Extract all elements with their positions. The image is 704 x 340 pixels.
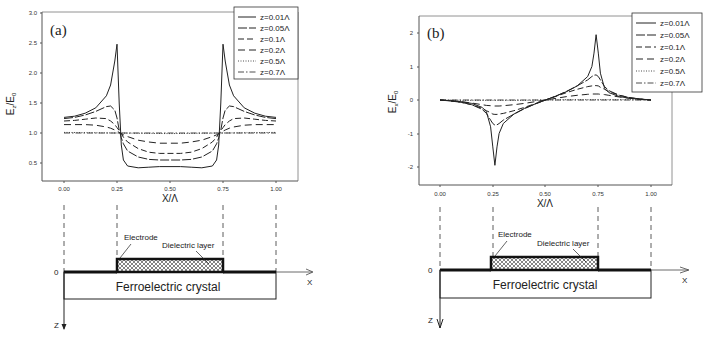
svg-text:X: X: [682, 276, 688, 285]
x-ticks: 0.00 0.25 0.50 0.75 1.00: [434, 185, 657, 197]
y-ticks: 2 1 0 -1 -2: [408, 30, 419, 170]
svg-text:0: 0: [54, 268, 59, 277]
svg-text:2.0: 2.0: [29, 70, 38, 76]
electrode-label-b: Electrode: [498, 230, 532, 239]
svg-text:z=0.01Λ: z=0.01Λ: [260, 13, 290, 22]
curves-b: [440, 35, 651, 166]
svg-text:z=0.1Λ: z=0.1Λ: [260, 35, 286, 44]
dielectric-label-b: Dielectric layer: [537, 239, 590, 248]
dielectric-layer-b: [491, 257, 598, 270]
svg-text:Ferroelectric crystal: Ferroelectric crystal: [493, 278, 598, 292]
x-axis-label: X/Λ: [162, 193, 178, 204]
svg-text:1.0: 1.0: [29, 130, 38, 136]
diagram-b: Ferroelectric crystal X Z 0 Electrode Di…: [428, 207, 689, 328]
svg-text:z=0.05Λ: z=0.05Λ: [660, 31, 690, 40]
svg-text:1.00: 1.00: [645, 191, 657, 197]
dielectric-label-a: Dielectric layer: [162, 241, 215, 250]
y-axis-label: Ex/E0: [387, 90, 399, 113]
svg-text:Ex/E0: Ex/E0: [387, 90, 399, 113]
chart-a: 3.0 2.5 2.0 1.5 1.0 0.5 0.00 0.25 0.50 0…: [5, 7, 298, 204]
svg-text:0.00: 0.00: [58, 186, 70, 192]
svg-text:z=0.7Λ: z=0.7Λ: [660, 79, 686, 88]
svg-text:0.00: 0.00: [434, 191, 446, 197]
svg-text:Z: Z: [428, 316, 433, 325]
svg-text:0: 0: [410, 97, 414, 103]
dielectric-layer-a: [117, 259, 223, 272]
svg-text:2.5: 2.5: [29, 40, 38, 46]
svg-text:z=0.2Λ: z=0.2Λ: [660, 55, 686, 64]
svg-text:0.5: 0.5: [29, 160, 38, 166]
svg-text:1: 1: [410, 64, 414, 70]
y-axis-label: Ez/E0: [5, 92, 17, 115]
diagram-a: Ferroelectric crystal X Z 0 Electrode Di…: [54, 205, 313, 330]
svg-text:-2: -2: [408, 164, 414, 170]
svg-text:z=0.2Λ: z=0.2Λ: [260, 46, 286, 55]
figure: 3.0 2.5 2.0 1.5 1.0 0.5 0.00 0.25 0.50 0…: [0, 0, 704, 340]
y-ticks: 3.0 2.5 2.0 1.5 1.0 0.5: [29, 10, 42, 166]
svg-text:1.00: 1.00: [270, 186, 282, 192]
curve-z02: [64, 125, 276, 144]
svg-text:-1: -1: [408, 131, 414, 137]
x-ticks: 0.00 0.25 0.50 0.75 1.00: [58, 181, 282, 192]
svg-text:0.50: 0.50: [539, 191, 551, 197]
svg-text:z=0.7Λ: z=0.7Λ: [260, 68, 286, 77]
svg-text:0: 0: [428, 266, 433, 275]
svg-text:1.5: 1.5: [29, 100, 38, 106]
svg-text:Ez/E0: Ez/E0: [5, 92, 17, 115]
chart-b: 2 1 0 -1 -2 0.00 0.25 0.50 0.75 1.00 X/Λ…: [387, 13, 702, 209]
svg-text:z=0.5Λ: z=0.5Λ: [660, 67, 686, 76]
svg-text:0.75: 0.75: [592, 191, 604, 197]
legend-a: z=0.01Λ z=0.05Λ z=0.1Λ z=0.2Λ z=0.5Λ z=0…: [234, 7, 298, 79]
svg-text:Z: Z: [54, 321, 59, 330]
svg-text:0.25: 0.25: [111, 186, 123, 192]
svg-text:Ferroelectric crystal: Ferroelectric crystal: [116, 280, 221, 294]
electrode-label-a: Electrode: [124, 233, 158, 242]
svg-text:z=0.01Λ: z=0.01Λ: [660, 19, 690, 28]
svg-text:z=0.05Λ: z=0.05Λ: [260, 24, 290, 33]
svg-text:2: 2: [410, 30, 414, 36]
panel-label-b: (b): [427, 25, 445, 42]
legend-b: z=0.01Λ z=0.05Λ z=0.1Λ z=0.2Λ z=0.5Λ z=0…: [632, 13, 702, 92]
svg-text:0.75: 0.75: [217, 186, 229, 192]
svg-text:0.25: 0.25: [487, 191, 499, 197]
panel-label-a: (a): [50, 22, 67, 39]
svg-text:X: X: [307, 278, 313, 287]
svg-text:z=0.5Λ: z=0.5Λ: [260, 57, 286, 66]
svg-text:0.50: 0.50: [164, 186, 176, 192]
x-axis-label: X/Λ: [537, 198, 553, 209]
svg-text:3.0: 3.0: [29, 10, 38, 16]
svg-text:z=0.1Λ: z=0.1Λ: [660, 43, 686, 52]
curve-z01: [64, 118, 276, 153]
